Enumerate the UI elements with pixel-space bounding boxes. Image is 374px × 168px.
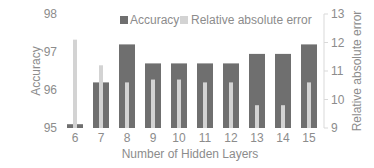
legend-swatch-accuracy <box>120 16 128 24</box>
x-tick-label: 11 <box>199 131 212 145</box>
error-bar <box>229 82 233 128</box>
error-bar <box>177 80 181 128</box>
legend-label-error: Relative absolute error <box>191 13 312 27</box>
y2-tick-label: 13 <box>331 7 345 21</box>
right-axis: 910111213 <box>324 7 345 135</box>
legend-swatch-error <box>180 16 188 24</box>
y-tick-label: 98 <box>44 7 58 21</box>
x-tick-label: 8 <box>124 131 131 145</box>
y-axis-label: Accuracy <box>29 46 43 95</box>
y2-tick-label: 10 <box>331 93 345 107</box>
x-tick-label: 15 <box>302 131 316 145</box>
y2-tick-label: 12 <box>331 36 345 50</box>
x-tick-label: 13 <box>250 131 264 145</box>
y-tick-label: 97 <box>44 45 58 59</box>
error-bar <box>73 40 77 128</box>
error-bar <box>307 82 311 128</box>
y-tick-label: 96 <box>44 83 58 97</box>
legend: Accuracy Relative absolute error <box>120 13 312 27</box>
x-axis-ticks: 6789101112131415 <box>72 131 316 145</box>
y-tick-label: 95 <box>44 121 58 135</box>
x-tick-label: 6 <box>72 131 79 145</box>
error-bar <box>281 105 285 128</box>
chart-canvas: 95969798 910111213 6789101112131415 Accu… <box>0 0 374 168</box>
left-axis-ticks: 95969798 <box>44 7 58 135</box>
x-tick-label: 10 <box>172 131 186 145</box>
legend-label-accuracy: Accuracy <box>130 13 179 27</box>
y2-axis-label: Relative absolute error <box>350 11 364 132</box>
error-bar <box>99 65 103 128</box>
x-tick-label: 7 <box>98 131 105 145</box>
x-tick-label: 14 <box>276 131 290 145</box>
error-bar <box>125 82 129 128</box>
x-tick-label: 12 <box>224 131 238 145</box>
x-tick-label: 9 <box>150 131 157 145</box>
error-bar <box>203 82 207 128</box>
bars-group <box>67 40 317 128</box>
y2-tick-label: 11 <box>331 64 344 78</box>
error-bar <box>255 105 259 128</box>
bar-chart: 95969798 910111213 6789101112131415 Accu… <box>0 0 374 168</box>
error-bar <box>151 80 155 128</box>
x-axis-label: Number of Hidden Layers <box>122 147 259 161</box>
y2-tick-label: 9 <box>331 121 338 135</box>
